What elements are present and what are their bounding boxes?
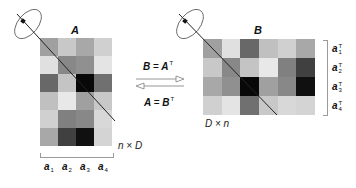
rotation-ellipse-icon-a bbox=[9, 5, 46, 44]
matrix-b-diagonal-axis bbox=[179, 14, 277, 115]
matrix-a-diagonal-axis bbox=[17, 14, 115, 121]
arrow-right-icon bbox=[136, 76, 184, 82]
rotation-ellipse-icon-b bbox=[171, 5, 208, 44]
arrow-left-icon bbox=[136, 83, 184, 89]
diagram-overlay bbox=[0, 0, 356, 188]
